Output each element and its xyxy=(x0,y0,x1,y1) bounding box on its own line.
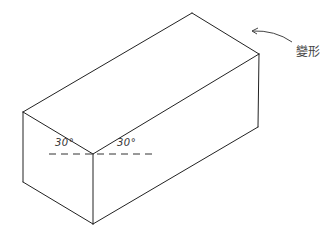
edge-bottom-left xyxy=(23,182,93,224)
angle-label-left: 30° xyxy=(55,137,74,148)
edge-right-vertical xyxy=(258,54,259,127)
callout-label: 變形 xyxy=(296,42,320,59)
edge-top-back-left xyxy=(23,13,192,112)
edge-top-back-right xyxy=(192,13,259,54)
isometric-box-diagram xyxy=(0,0,331,242)
angle-label-right: 30° xyxy=(117,137,136,148)
box-edges xyxy=(23,13,259,224)
callout-arrow xyxy=(252,31,292,42)
